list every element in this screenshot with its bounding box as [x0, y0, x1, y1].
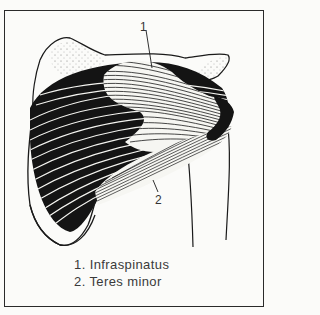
legend: 1. Infraspinatus 2. Teres minor — [74, 256, 169, 290]
humerus-outline-right — [226, 120, 229, 240]
legend-item-infraspinatus: 1. Infraspinatus — [74, 256, 169, 273]
callout-label-2: 2 — [155, 193, 162, 207]
legend-item-teres-minor: 2. Teres minor — [74, 273, 169, 290]
callout-label-1: 1 — [140, 20, 147, 34]
callout-line-2 — [153, 180, 158, 192]
